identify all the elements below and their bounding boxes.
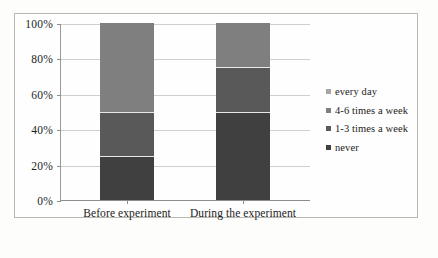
bar-segment[interactable] xyxy=(100,112,154,156)
y-axis-tick xyxy=(57,59,61,60)
legend-item[interactable]: every day xyxy=(326,86,408,97)
x-axis-tick xyxy=(127,200,128,204)
x-axis-tick xyxy=(243,200,244,204)
gridline xyxy=(61,95,310,96)
gridline xyxy=(61,166,310,167)
y-axis-tick xyxy=(57,166,61,167)
gridline xyxy=(61,130,310,131)
legend-item[interactable]: 4-6 times a week xyxy=(326,105,408,116)
legend-item[interactable]: never xyxy=(326,142,408,153)
legend-item-label: every day xyxy=(335,86,377,97)
y-axis-tick-label: 20% xyxy=(31,160,53,172)
gridline xyxy=(61,24,310,25)
y-axis-tick xyxy=(57,201,61,202)
legend-item-label: never xyxy=(335,142,359,153)
y-axis-tick-label: 0% xyxy=(37,195,53,207)
chart-page: 100%80%60%40%20%0%Before experimentDurin… xyxy=(0,0,438,258)
y-axis-tick-label: 100% xyxy=(25,18,53,30)
legend-swatch-icon xyxy=(326,89,331,94)
bar-segment[interactable] xyxy=(100,156,154,200)
plot-area: 100%80%60%40%20%0%Before experimentDurin… xyxy=(60,24,310,201)
x-axis-category-label: Before experiment xyxy=(83,207,171,219)
y-axis-tick xyxy=(57,24,61,25)
legend-item-label: 4-6 times a week xyxy=(335,105,408,116)
y-axis-tick-label: 60% xyxy=(31,89,53,101)
bar-segment[interactable] xyxy=(216,23,270,67)
legend-swatch-icon xyxy=(326,145,331,150)
legend-item-label: 1-3 times a week xyxy=(335,123,408,134)
stacked-bar[interactable] xyxy=(100,23,154,200)
x-axis-category-label: During the experiment xyxy=(190,207,296,219)
gridline xyxy=(61,59,310,60)
stacked-bar[interactable] xyxy=(216,23,270,200)
legend-swatch-icon xyxy=(326,126,331,131)
y-axis-tick-label: 40% xyxy=(31,124,53,136)
bar-segment[interactable] xyxy=(216,67,270,111)
legend-item[interactable]: 1-3 times a week xyxy=(326,123,408,134)
bar-segment[interactable] xyxy=(216,112,270,201)
chart-legend: every day4-6 times a week1-3 times a wee… xyxy=(326,86,408,153)
y-axis-tick xyxy=(57,95,61,96)
legend-swatch-icon xyxy=(326,108,331,113)
y-axis-tick-label: 80% xyxy=(31,53,53,65)
bar-segment[interactable] xyxy=(100,23,154,112)
y-axis-tick xyxy=(57,130,61,131)
